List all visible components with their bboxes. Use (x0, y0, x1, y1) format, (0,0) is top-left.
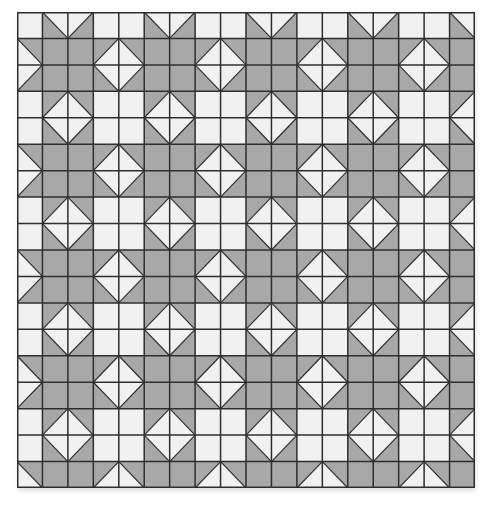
light-square (297, 224, 322, 250)
dark-square (373, 382, 398, 408)
dark-square (246, 462, 271, 488)
dark-square (42, 276, 67, 302)
dark-square (68, 250, 93, 276)
dark-square (450, 382, 475, 408)
dark-square (348, 144, 373, 170)
dark-square (42, 382, 67, 408)
dark-square (246, 171, 271, 197)
light-square (297, 409, 322, 435)
light-square (195, 435, 220, 461)
dark-square (373, 250, 398, 276)
light-square (297, 435, 322, 461)
light-square (399, 118, 424, 144)
light-square (322, 329, 347, 355)
light-square (221, 197, 246, 223)
dark-square (271, 144, 296, 170)
dark-square (42, 65, 67, 91)
dark-square (246, 65, 271, 91)
dark-square (170, 462, 195, 488)
light-square (93, 303, 118, 329)
dark-square (271, 65, 296, 91)
light-square (399, 329, 424, 355)
light-square (195, 91, 220, 117)
dark-square (450, 356, 475, 382)
light-square (17, 197, 42, 223)
dark-square (271, 462, 296, 488)
light-square (119, 329, 144, 355)
dark-square (170, 250, 195, 276)
dark-square (68, 38, 93, 64)
dark-square (246, 144, 271, 170)
light-square (17, 118, 42, 144)
dark-square (246, 250, 271, 276)
light-square (322, 224, 347, 250)
dark-square (144, 250, 169, 276)
dark-square (144, 38, 169, 64)
quilt-svg (17, 12, 475, 488)
light-square (322, 91, 347, 117)
dark-square (68, 276, 93, 302)
light-square (17, 91, 42, 117)
dark-square (450, 38, 475, 64)
light-square (93, 224, 118, 250)
light-square (119, 303, 144, 329)
light-square (119, 224, 144, 250)
light-square (424, 303, 449, 329)
light-square (297, 12, 322, 38)
light-square (119, 409, 144, 435)
dark-square (271, 356, 296, 382)
light-square (93, 118, 118, 144)
dark-square (144, 171, 169, 197)
light-square (399, 91, 424, 117)
dark-square (271, 250, 296, 276)
dark-square (271, 171, 296, 197)
dark-square (42, 356, 67, 382)
dark-square (246, 38, 271, 64)
light-square (93, 91, 118, 117)
light-square (195, 197, 220, 223)
light-square (424, 91, 449, 117)
dark-square (170, 356, 195, 382)
light-square (322, 12, 347, 38)
light-square (93, 409, 118, 435)
light-square (17, 435, 42, 461)
dark-square (170, 382, 195, 408)
dark-square (450, 65, 475, 91)
light-square (297, 303, 322, 329)
dark-square (170, 38, 195, 64)
light-square (221, 303, 246, 329)
light-square (17, 303, 42, 329)
light-square (424, 409, 449, 435)
light-square (424, 329, 449, 355)
light-square (399, 197, 424, 223)
dark-square (68, 462, 93, 488)
dark-square (68, 382, 93, 408)
dark-square (170, 65, 195, 91)
light-square (93, 329, 118, 355)
dark-square (450, 462, 475, 488)
dark-square (246, 276, 271, 302)
dark-square (450, 144, 475, 170)
light-square (17, 12, 42, 38)
light-square (399, 12, 424, 38)
light-square (195, 118, 220, 144)
dark-square (144, 65, 169, 91)
light-square (424, 12, 449, 38)
light-square (17, 329, 42, 355)
dark-square (348, 250, 373, 276)
light-square (221, 118, 246, 144)
light-square (322, 197, 347, 223)
light-square (297, 329, 322, 355)
light-square (424, 197, 449, 223)
light-square (399, 224, 424, 250)
light-square (195, 409, 220, 435)
dark-square (144, 462, 169, 488)
light-square (93, 12, 118, 38)
dark-square (144, 356, 169, 382)
dark-square (348, 38, 373, 64)
light-square (297, 197, 322, 223)
light-square (322, 303, 347, 329)
light-square (119, 118, 144, 144)
light-square (322, 435, 347, 461)
dark-square (170, 144, 195, 170)
